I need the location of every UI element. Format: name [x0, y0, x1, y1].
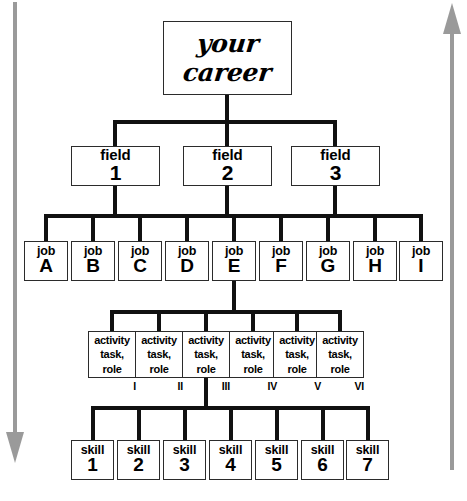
job-box-g: job G: [306, 241, 350, 281]
skill-value-3: 3: [179, 455, 190, 476]
connector-job-a-drop: [44, 214, 48, 241]
connector-field-3-drop: [333, 120, 337, 146]
job-value-h: H: [368, 256, 382, 277]
activity-line3-3: role: [197, 362, 216, 376]
career-hierarchy-diagram: your career field 1 field 2 field 3 job …: [0, 0, 467, 501]
activity-line3-2: role: [150, 362, 169, 376]
job-box-h: job H: [353, 241, 397, 281]
connector-activity-3-drop: [204, 310, 208, 332]
connector-activity-2-drop: [157, 310, 161, 332]
activity-line2-3: task,: [194, 347, 218, 361]
skill-value-7: 7: [362, 455, 373, 476]
connector-field-2-down: [225, 186, 229, 216]
connector-skill-1-drop: [91, 406, 95, 440]
activity-box-1: activity task, role: [88, 331, 136, 378]
career-title-line2: career: [182, 58, 273, 88]
job-box-b: job B: [71, 241, 115, 281]
job-box-e: job E: [212, 241, 256, 281]
activity-box-2: activity task, role: [135, 331, 183, 378]
job-box-c: job C: [118, 241, 162, 281]
skill-value-4: 4: [225, 455, 236, 476]
skill-value-6: 6: [317, 455, 328, 476]
skill-box-6: skill 6: [301, 440, 344, 480]
downward-arrow: [4, 2, 26, 464]
activity-line1-1: activity: [94, 333, 130, 347]
connector-activity-4-drop: [251, 310, 255, 332]
activity-line3-1: role: [103, 362, 122, 376]
field-value-1: 1: [110, 162, 122, 185]
connector-skill-3-drop: [183, 406, 187, 440]
job-value-f: F: [275, 256, 287, 277]
job-value-d: D: [180, 256, 194, 277]
job-box-i: job I: [399, 241, 443, 281]
field-box-3: field 3: [291, 146, 380, 186]
connector-skill-5-drop: [275, 406, 279, 440]
connector-job-d-drop: [185, 214, 189, 241]
connector-field-1-drop: [113, 120, 117, 146]
connector-job-e-drop: [232, 214, 236, 241]
activity-line1-3: activity: [188, 333, 224, 347]
job-box-f: job F: [259, 241, 303, 281]
activity-line1-5: activity: [279, 333, 315, 347]
skill-box-2: skill 2: [117, 440, 160, 480]
connector-skill-2-drop: [137, 406, 141, 440]
skill-box-1: skill 1: [71, 440, 114, 480]
connector-skill-4-drop: [229, 406, 233, 440]
skill-value-2: 2: [133, 455, 144, 476]
activity-line3-4: role: [244, 362, 263, 376]
activity-box-5: activity task, role: [273, 331, 321, 378]
activity-numeral-6: VI: [316, 380, 364, 392]
connector-job-b-drop: [91, 214, 95, 241]
field-box-1: field 1: [71, 146, 160, 186]
career-box: your career: [163, 21, 292, 95]
career-title-line1: your: [195, 29, 260, 59]
activity-line1-6: activity: [322, 333, 358, 347]
connector-field-3-down: [333, 186, 337, 216]
activity-line3-5: role: [288, 362, 307, 376]
activity-line1-4: activity: [235, 333, 271, 347]
activity-line2-5: task,: [285, 347, 309, 361]
job-value-c: C: [133, 256, 147, 277]
connector-job-g-drop: [326, 214, 330, 241]
job-value-g: G: [321, 256, 336, 277]
activity-numeral-2: II: [135, 380, 183, 392]
skill-box-3: skill 3: [163, 440, 206, 480]
connector-activity-5-drop: [295, 310, 299, 332]
field-box-2: field 2: [183, 146, 272, 186]
skill-box-5: skill 5: [255, 440, 298, 480]
activity-line2-6: task,: [328, 347, 352, 361]
job-value-e: E: [228, 256, 241, 277]
connector-job-c-drop: [138, 214, 142, 241]
connector-activity-bus: [110, 310, 342, 314]
activity-line3-6: role: [331, 362, 350, 376]
field-value-3: 3: [330, 162, 342, 185]
connector-field-2-drop: [225, 120, 229, 146]
activity-line2-4: task,: [241, 347, 265, 361]
connector-job-h-drop: [373, 214, 377, 241]
activity-numeral-1: I: [88, 380, 136, 392]
connector-skill-7-drop: [366, 406, 370, 440]
skill-value-5: 5: [271, 455, 282, 476]
activity-box-3: activity task, role: [182, 331, 230, 378]
skill-box-7: skill 7: [346, 440, 389, 480]
connector-activity-1-drop: [110, 310, 114, 332]
skill-box-4: skill 4: [209, 440, 252, 480]
connector-field-1-down: [113, 186, 117, 216]
connector-job-i-drop: [419, 214, 423, 241]
connector-job-f-drop: [279, 214, 283, 241]
job-value-b: B: [86, 256, 100, 277]
field-value-2: 2: [222, 162, 234, 185]
activity-line2-1: task,: [100, 347, 124, 361]
skill-value-1: 1: [87, 455, 98, 476]
connector-career-drop: [225, 95, 229, 122]
activity-numeral-4: IV: [229, 380, 277, 392]
job-box-a: job A: [24, 241, 68, 281]
job-value-i: I: [418, 256, 423, 277]
connector-job-e-down: [232, 281, 236, 313]
upward-arrow: [441, 2, 463, 470]
activity-line2-2: task,: [147, 347, 171, 361]
job-box-d: job D: [165, 241, 209, 281]
activity-box-6: activity task, role: [316, 331, 364, 378]
activity-numeral-5: V: [273, 380, 321, 392]
connector-skill-6-drop: [321, 406, 325, 440]
